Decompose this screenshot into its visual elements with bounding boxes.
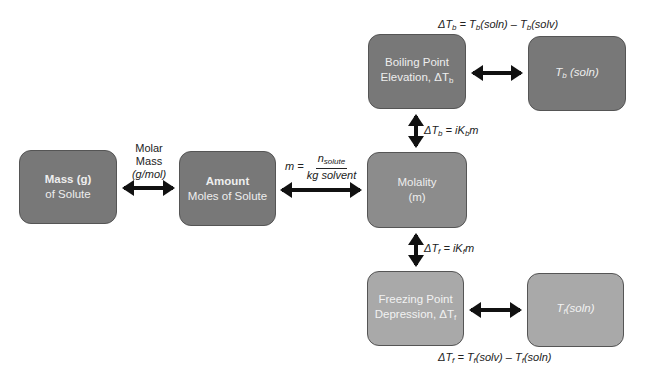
- label-freezing-definition: ΔTf = Tf(solv) – Tf(soln): [438, 351, 551, 367]
- node-molality: Molality (m): [367, 152, 467, 228]
- label-delta-tb-ikbm: ΔTb = iKbm: [424, 124, 479, 140]
- label-boiling-definition: ΔTb = Tb(soln) – Tb(solv): [438, 18, 558, 34]
- node-sublabel: Moles of Solute: [188, 189, 267, 204]
- node-label: Mass (g): [45, 172, 92, 187]
- node-mass-of-solute: Mass (g) of Solute: [19, 150, 117, 224]
- node-label: Freezing Point: [378, 292, 452, 307]
- node-tb-soln: Tb (soln): [528, 36, 626, 111]
- node-sublabel: of Solute: [45, 187, 90, 202]
- node-label: Amount: [206, 174, 249, 189]
- node-tf-soln: Tf(soln): [527, 273, 624, 347]
- node-sublabel: Elevation, ΔTb: [381, 70, 454, 88]
- node-label: Boiling Point: [385, 55, 449, 70]
- label-molality-formula: m = nsolutekg solvent: [285, 152, 356, 182]
- node-label: Molality: [398, 175, 437, 190]
- label-delta-tf-ikfm: ΔTf = iKfm: [424, 242, 474, 258]
- node-sublabel: Depression, ΔTf: [375, 307, 457, 325]
- node-freezing-point-depression: Freezing Point Depression, ΔTf: [367, 271, 464, 346]
- label-molar-mass: Molar Mass (g/mol): [124, 142, 174, 181]
- node-label: Tf(soln): [556, 301, 594, 319]
- node-sublabel: (m): [408, 190, 425, 205]
- node-amount: Amount Moles of Solute: [179, 151, 276, 226]
- node-label: Tb (soln): [555, 65, 598, 83]
- node-boiling-point-elevation: Boiling Point Elevation, ΔTb: [368, 34, 466, 109]
